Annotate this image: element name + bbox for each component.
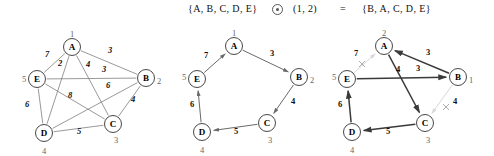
- hamiltonian-cycle-graph: 73456A1B2C3D4E5: [168, 24, 328, 156]
- node-index-C: 3: [268, 135, 272, 145]
- node-index-A: 1: [70, 29, 74, 39]
- edge-weight-B-C: 4: [453, 96, 458, 106]
- node-index-A: 2: [382, 28, 386, 38]
- edge-weight-E-B: 3: [416, 63, 420, 73]
- edge-weight-A-B: 3: [270, 48, 274, 58]
- edge-weight-E-A: 7: [204, 50, 209, 60]
- node-index-E: 5: [182, 72, 186, 82]
- right-permutation-set: {B, A, C, D, E}: [362, 3, 431, 14]
- edge-weight-B-C: 4: [130, 94, 135, 104]
- node-index-A: 1: [232, 28, 236, 38]
- edge-E-B: [47, 78, 137, 79]
- edge-weight-E-C: 8: [68, 90, 73, 100]
- edge-E-D: [38, 89, 43, 124]
- edge-B-A: [395, 51, 449, 74]
- node-label-E: E: [344, 74, 350, 84]
- node-index-B: 1: [469, 75, 473, 85]
- edge-weight-B-D: 6: [106, 80, 111, 90]
- edge-weight-D-E: 6: [338, 99, 342, 109]
- node-label-D: D: [41, 128, 48, 138]
- left-permutation-set: {A, B, C, D, E}: [188, 3, 258, 14]
- node-index-E: 5: [22, 74, 26, 84]
- graph-hamiltonian-cycle: 73456A1B2C3D4E5: [168, 24, 328, 156]
- edge-A-B: [243, 50, 289, 72]
- node-label-A: A: [381, 41, 388, 51]
- node-index-B: 2: [310, 75, 314, 85]
- node-index-D: 4: [42, 146, 47, 156]
- cross-mark-edge-4: [443, 104, 449, 110]
- swap-pair: (1, 2): [293, 3, 317, 14]
- edge-weight-A-B: 3: [107, 45, 113, 55]
- node-label-B: B: [455, 72, 461, 82]
- edge-weight-B-A: 3: [426, 47, 430, 57]
- equals-sign: =: [340, 3, 346, 14]
- node-index-B: 2: [157, 76, 161, 86]
- edge-E-B: [357, 77, 446, 79]
- node-label-B: B: [296, 72, 302, 82]
- node-label-E: E: [194, 74, 200, 84]
- node-index-D: 4: [200, 145, 205, 155]
- edge-B-C: [432, 85, 452, 113]
- complete-weighted-graph: 7324364865A1B2C3D4E5: [0, 24, 168, 156]
- edge-weight-D-C: 5: [77, 126, 82, 136]
- edge-A-C: [389, 55, 420, 113]
- edge-weight-A-C: 4: [85, 59, 90, 69]
- node-label-C: C: [422, 118, 429, 128]
- node-index-E: 5: [332, 72, 336, 82]
- node-label-E: E: [34, 74, 40, 84]
- equation-header: {A, B, C, D, E} (1, 2) = {B, A, C, D, E}: [0, 0, 494, 24]
- edge-weight-C-D: 5: [234, 126, 238, 136]
- node-index-D: 4: [350, 145, 355, 155]
- graph-complete-weighted: 7324364865A1B2C3D4E5: [0, 24, 168, 156]
- node-label-A: A: [69, 42, 76, 52]
- edge-weight-A-C: 4: [396, 64, 401, 74]
- circled-dot-operator-icon: [272, 4, 283, 15]
- edge-weight-A-E: 7: [45, 49, 50, 59]
- edge-weight-B-C: 4: [291, 96, 296, 106]
- swapped-cycle-graph: 7343456A2B1C3D4E5: [328, 24, 494, 156]
- edge-weight-E-D: 6: [25, 99, 30, 109]
- edge-D-E: [198, 91, 201, 122]
- node-label-D: D: [349, 127, 356, 137]
- edge-weight-E-B: 3: [101, 64, 107, 74]
- edge-weight-C-D: 5: [386, 126, 390, 136]
- edge-weight-A-D: 2: [57, 58, 63, 68]
- node-label-A: A: [231, 41, 238, 51]
- node-index-C: 3: [426, 135, 430, 145]
- graph-swapped-cycle: 7343456A2B1C3D4E5: [328, 24, 494, 156]
- edge-weight-E-A: 7: [354, 48, 359, 58]
- node-index-C: 3: [114, 135, 118, 145]
- node-label-C: C: [110, 119, 117, 129]
- node-label-B: B: [143, 73, 149, 83]
- edge-D-E: [348, 91, 351, 122]
- node-label-C: C: [264, 118, 271, 128]
- edge-B-C: [119, 86, 141, 116]
- edge-weight-D-E: 6: [190, 99, 194, 109]
- node-label-D: D: [199, 127, 206, 137]
